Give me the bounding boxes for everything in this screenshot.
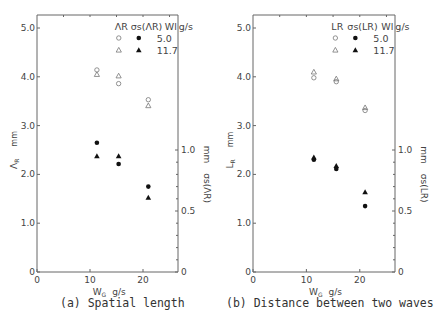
- y-tick-label: 5.0: [237, 23, 252, 33]
- left-y-axis-label: ΛRmm: [9, 131, 20, 169]
- data-point: [146, 184, 151, 189]
- y-tick-label: 2.0: [21, 169, 36, 179]
- right-y-tick-label: 1.0: [398, 145, 413, 155]
- data-point: [146, 195, 152, 200]
- data-point: [146, 98, 150, 102]
- y-tick-label: 4.0: [237, 72, 252, 82]
- chart-panel-spatial-length: 01.02.03.04.05.00102000.51.0WGg/sΛRmmmmσ…: [9, 15, 212, 310]
- right-y-tick-label: 0: [181, 267, 187, 277]
- legend-header-col1: ΛR: [115, 21, 128, 32]
- legend-header-col1: LR: [331, 21, 343, 32]
- data-point: [311, 155, 317, 160]
- data-point: [116, 73, 121, 78]
- right-y-axis-label: mmσs(LR): [419, 146, 429, 202]
- x-tick-label: 10: [84, 275, 96, 285]
- legend-unit: g/s: [395, 21, 409, 32]
- data-point: [94, 72, 99, 77]
- legend-value: 11.7: [157, 45, 178, 56]
- right-y-tick-label: 1.0: [181, 145, 196, 155]
- data-point: [311, 69, 316, 74]
- legend-marker-filled-triangle-icon: [136, 47, 142, 52]
- legend-marker-open-circle-icon: [333, 36, 337, 40]
- data-point: [362, 189, 368, 194]
- legend: LRσs(LR)Wlg/s5.011.7: [331, 21, 409, 56]
- right-y-tick-label: 0.5: [181, 206, 195, 216]
- x-tick-label: 0: [34, 275, 40, 285]
- legend-value: 5.0: [373, 33, 388, 44]
- legend-marker-filled-triangle-icon: [353, 47, 359, 52]
- chart-panel-distance-between-waves: 01.02.03.04.05.00102000.51.0WGg/sLRmmmmσ…: [225, 15, 434, 310]
- legend-header-col3: Wl: [381, 21, 393, 32]
- right-y-tick-label: 0: [398, 267, 404, 277]
- legend-marker-filled-circle-icon: [136, 36, 141, 41]
- y-tick-label: 1.0: [237, 218, 252, 228]
- data-point: [334, 76, 339, 81]
- legend-marker-open-triangle-icon: [333, 47, 338, 52]
- data-point: [146, 103, 151, 108]
- data-point: [116, 162, 121, 167]
- legend-header-col2: σs(ΛR): [131, 21, 162, 32]
- legend-marker-open-circle-icon: [117, 36, 121, 40]
- data-point: [363, 204, 368, 209]
- chart-caption: (a) Spatial length: [60, 296, 185, 310]
- data-point: [116, 153, 122, 158]
- y-tick-label: 5.0: [21, 23, 36, 33]
- y-tick-label: 4.0: [21, 72, 36, 82]
- x-tick-label: 10: [301, 275, 313, 285]
- axes: 01.02.03.04.05.00102000.51.0WGg/sLRmmmmσ…: [225, 15, 429, 298]
- legend-header-col2: σs(LR): [347, 21, 377, 32]
- axes: 01.02.03.04.05.00102000.51.0WGg/sΛRmmmmσ…: [9, 15, 212, 298]
- data-points: [311, 69, 368, 208]
- data-points: [94, 68, 151, 200]
- x-tick-label: 20: [137, 275, 149, 285]
- y-tick-label: 3.0: [21, 121, 36, 131]
- figure: 01.02.03.04.05.00102000.51.0WGg/sΛRmmmmσ…: [0, 0, 445, 323]
- data-point: [363, 105, 368, 110]
- y-tick-label: 1.0: [21, 218, 36, 228]
- legend-header-col3: Wl: [165, 21, 177, 32]
- data-point: [333, 163, 339, 168]
- legend-unit: g/s: [179, 21, 193, 32]
- left-y-axis-label: LRmm: [225, 131, 236, 168]
- legend: ΛRσs(ΛR)Wlg/s5.011.7: [115, 21, 193, 56]
- right-y-tick-label: 0.5: [398, 206, 412, 216]
- chart-caption: (b) Distance between two waves: [226, 296, 434, 310]
- legend-marker-filled-circle-icon: [353, 36, 358, 41]
- data-point: [95, 140, 100, 145]
- data-point: [94, 153, 100, 158]
- legend-value: 5.0: [157, 33, 172, 44]
- data-point: [334, 79, 338, 83]
- legend-marker-open-triangle-icon: [116, 47, 121, 52]
- data-point: [116, 81, 120, 85]
- x-tick-label: 20: [354, 275, 366, 285]
- data-point: [312, 76, 316, 80]
- data-point: [363, 108, 367, 112]
- y-tick-label: 3.0: [237, 121, 252, 131]
- y-tick-label: 2.0: [237, 169, 252, 179]
- right-y-axis-label: mmσs(ΛR): [202, 146, 212, 203]
- x-tick-label: 0: [250, 275, 256, 285]
- legend-value: 11.7: [373, 45, 394, 56]
